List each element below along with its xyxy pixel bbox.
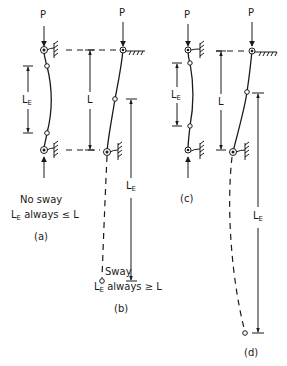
inflection-point-icon (245, 90, 250, 95)
caption-b: (b) (114, 304, 128, 314)
panel-b (100, 22, 145, 283)
effective-length-label-a: LE (22, 95, 32, 107)
caption-c: (c) (180, 194, 193, 204)
note-a-line1: No sway (20, 195, 62, 205)
load-label-d: P (248, 8, 254, 18)
buckled-column (233, 50, 252, 152)
extended-buckled-shape (230, 157, 244, 328)
inflection-point-icon (188, 124, 192, 128)
caption-a: (a) (34, 232, 48, 242)
effective-length-label-b: LE (126, 181, 136, 193)
fixed-support-icon (110, 142, 122, 160)
load-label-a: P (40, 10, 46, 20)
note-a-line2: LE always ≤ L (11, 210, 79, 222)
fixed-support-icon (191, 41, 204, 58)
panel-d (230, 22, 278, 335)
fixed-support-icon (191, 141, 204, 159)
fixed-support-icon (47, 41, 58, 58)
inflection-point-icon (243, 331, 248, 336)
effective-length-diagram (0, 0, 287, 366)
inflection-point-icon (188, 61, 192, 65)
load-label-c: P (184, 10, 190, 20)
fixed-support-icon (47, 141, 58, 158)
note-b-line1: Sway (105, 267, 132, 277)
inflection-point-icon (45, 64, 50, 69)
length-label-cd: L (218, 97, 224, 107)
effective-length-label-d: LE (253, 211, 263, 223)
effective-length-label-c: LE (171, 90, 181, 102)
caption-d: (d) (244, 348, 258, 358)
sliding-support-icon (126, 51, 145, 55)
sliding-support-icon (255, 52, 277, 56)
inflection-point-icon (113, 97, 118, 102)
length-label-ab: L (87, 95, 93, 105)
note-b-line2: LE always ≥ L (94, 282, 162, 294)
extended-buckled-shape (102, 156, 107, 278)
inflection-point-icon (45, 131, 50, 136)
fixed-support-icon (236, 142, 249, 160)
load-label-b: P (119, 8, 125, 18)
